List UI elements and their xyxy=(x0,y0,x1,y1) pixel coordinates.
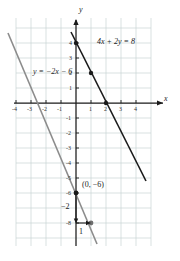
y-axis-label: y xyxy=(79,6,83,14)
x-tick-neg4: -4 xyxy=(12,106,17,112)
x-tick-neg3: -3 xyxy=(27,106,32,112)
x-tick-1: 1 xyxy=(89,106,92,112)
x-tick-4: 4 xyxy=(134,106,137,112)
x-tick-neg1: -1 xyxy=(57,106,62,112)
point-2-0 xyxy=(104,101,108,105)
y-tick-neg1: -1 xyxy=(66,115,71,121)
point-0-4 xyxy=(74,41,78,45)
x-axis-label: x xyxy=(164,95,168,103)
y-tick-neg6: -6 xyxy=(66,190,71,196)
x-tick-2: 2 xyxy=(104,106,107,112)
point-annotation-0-minus6: (0, −6) xyxy=(82,181,104,189)
y-axis-arrowhead xyxy=(73,19,78,25)
line-gray-y-eq-neg2x-minus6 xyxy=(8,33,97,244)
x-tick-3: 3 xyxy=(119,106,122,112)
equation-label-black-line: 4x + 2y = 8 xyxy=(97,38,135,46)
graph-figure: x y -4 -3 -2 -1 1 2 3 4 4 3 2 1 -1 -2 -3… xyxy=(0,0,180,261)
equation-label-gray-line: y = −2x − 6 xyxy=(33,68,72,76)
y-tick-neg5: -5 xyxy=(66,175,71,181)
y-tick-3: 3 xyxy=(69,55,72,61)
x-axis-arrowhead xyxy=(157,100,163,105)
run-label: 1 xyxy=(79,228,83,236)
x-tick-neg2: -2 xyxy=(42,106,47,112)
y-tick-4: 4 xyxy=(69,40,72,46)
rise-label: −2 xyxy=(61,203,70,211)
coordinate-plane xyxy=(0,0,180,261)
y-tick-neg8: -8 xyxy=(66,220,71,226)
y-tick-neg4: -4 xyxy=(66,160,71,166)
y-tick-1: 1 xyxy=(69,85,72,91)
y-tick-neg3: -3 xyxy=(66,145,71,151)
point-1-2 xyxy=(89,71,93,75)
y-tick-neg2: -2 xyxy=(66,130,71,136)
